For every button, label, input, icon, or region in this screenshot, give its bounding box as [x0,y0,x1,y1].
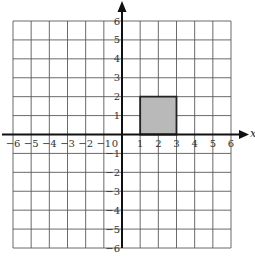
y-tick-label: −4 [105,205,120,216]
y-tick-label: −6 [105,243,120,254]
y-tick-label: 1 [114,110,120,121]
x-tick-label: 6 [228,138,234,149]
x-tick-label: −2 [78,138,93,149]
x-tick-label: 5 [210,138,216,149]
x-tick-label: −5 [24,138,39,149]
axes: x [2,1,255,248]
shapes [140,97,176,135]
x-axis-label: x [250,127,255,140]
x-tick-label: 3 [173,138,179,149]
x-tick-label: 4 [191,138,197,149]
y-tick-label: 4 [114,53,120,64]
y-tick-label: −2 [105,167,120,178]
y-tick-label: 5 [114,34,120,45]
y-tick-label: −5 [105,224,120,235]
y-tick-label: 6 [114,16,120,27]
x-tick-label: −6 [6,138,21,149]
x-axis-arrow-icon [239,130,249,139]
y-tick-label: 2 [114,91,120,102]
y-tick-label: 3 [114,72,120,83]
x-tick-label: −1 [96,138,111,149]
shaded-rectangle [140,97,176,135]
x-tick-label: 0 [112,138,118,149]
coordinate-plane: x −6−5−4−3−2−10123456−6−5−4−3−2−1123456 [0,0,255,260]
x-tick-label: −4 [42,138,57,149]
x-tick-label: −3 [60,138,75,149]
y-axis-arrow-icon [118,1,127,12]
y-tick-label: −3 [105,186,120,197]
y-tick-label: −1 [105,148,120,159]
x-tick-label: 2 [155,138,161,149]
x-tick-label: 1 [137,138,143,149]
